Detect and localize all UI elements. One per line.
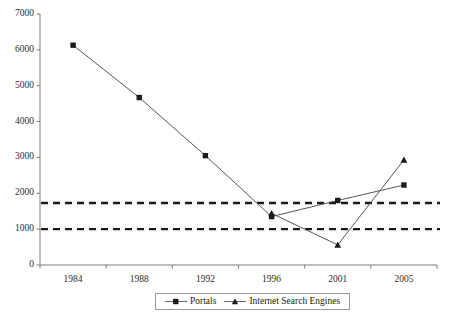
y-axis-tick-label: 6000: [0, 45, 34, 55]
legend-label-internet-search-engines: Internet Search Engines: [249, 297, 340, 307]
data-point-marker: [401, 182, 406, 187]
legend-item-portals: Portals: [165, 297, 216, 307]
y-axis-tick-label: 7000: [0, 9, 34, 19]
y-axis-tick-label: 5000: [0, 81, 34, 91]
data-point-marker: [137, 95, 142, 100]
x-axis-tick-label: 2001: [305, 275, 371, 285]
data-point-marker: [335, 198, 340, 203]
y-axis-tick-label: 4000: [0, 117, 34, 127]
square-marker-icon: [165, 297, 187, 306]
y-axis-tick-label: 2000: [0, 188, 34, 198]
legend-item-internet-search-engines: Internet Search Engines: [224, 297, 340, 307]
y-axis-tick-label: 3000: [0, 152, 34, 162]
data-series: [70, 43, 407, 248]
x-axis-tick-label: 2005: [371, 275, 437, 285]
triangle-marker-icon: [224, 297, 246, 306]
y-axis-tick-label: 1000: [0, 224, 34, 234]
chart-legend: Portals Internet Search Engines: [155, 293, 350, 310]
x-axis-tick-label: 1988: [106, 275, 172, 285]
reference-lines: [41, 203, 440, 229]
data-point-marker: [401, 157, 408, 163]
series-line-0: [73, 45, 404, 216]
x-axis-tick-label: 1996: [239, 275, 305, 285]
data-point-marker: [70, 43, 75, 48]
data-point-marker: [203, 153, 208, 158]
x-axis-tick-label: 1984: [40, 275, 106, 285]
legend-label-portals: Portals: [190, 297, 216, 307]
y-axis-tick-label: 0: [0, 260, 34, 270]
line-chart: 01000200030004000500060007000 1984198819…: [0, 0, 451, 326]
x-axis-tick-label: 1992: [172, 275, 238, 285]
data-point-marker: [268, 210, 275, 216]
